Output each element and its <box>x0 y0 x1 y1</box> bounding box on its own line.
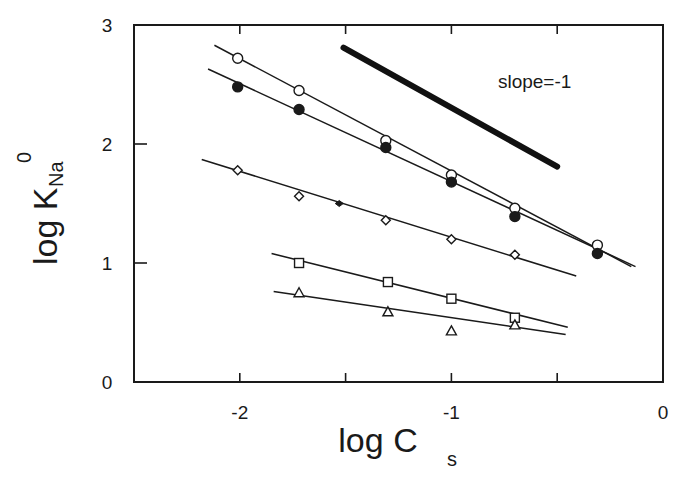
y-axis-title: log K Na 0 <box>13 152 67 265</box>
open-triangle-marker <box>446 326 456 335</box>
open-square-marker <box>383 278 392 287</box>
open-triangle-marker <box>294 288 304 297</box>
reference-slope-line <box>343 48 557 167</box>
open-diamond-marker <box>233 166 242 175</box>
filled-circle-marker <box>592 248 602 258</box>
fit-line <box>208 69 635 267</box>
x-tick-label: -2 <box>231 402 248 423</box>
fit-line <box>272 253 568 327</box>
chart: -2-100123 slope=-1 log C s log K Na 0 <box>0 0 687 486</box>
x-axis-title-main: log C <box>338 421 417 459</box>
filled-circle-marker <box>233 82 243 92</box>
filled-circle-marker <box>381 143 391 153</box>
open-diamond-marker <box>295 192 304 201</box>
fit-line <box>274 292 566 335</box>
y-tick-label: 0 <box>102 372 113 393</box>
open-circle-marker <box>233 53 243 63</box>
x-tick-label: 0 <box>658 402 669 423</box>
y-tick-label: 1 <box>102 253 113 274</box>
y-axis-title-main: log K <box>26 187 64 265</box>
slope-annotation: slope=-1 <box>498 71 571 92</box>
open-circle-marker <box>294 85 304 95</box>
data-markers <box>233 53 603 335</box>
filled-circle-marker <box>446 177 456 187</box>
y-tick-label: 2 <box>102 134 113 155</box>
x-axis-title: log C s <box>338 421 457 470</box>
slope-reference-line <box>343 48 557 167</box>
y-axis-title-subscript: Na <box>45 161 67 187</box>
x-tick-label: -1 <box>443 402 460 423</box>
filled-circle-marker <box>294 104 304 114</box>
y-tick-label: 3 <box>102 15 113 36</box>
y-axis-title-superscript: 0 <box>13 152 35 163</box>
x-axis-title-subscript: s <box>447 448 457 470</box>
open-square-marker <box>447 294 456 303</box>
open-square-marker <box>295 259 304 268</box>
filled-circle-marker <box>510 212 520 222</box>
